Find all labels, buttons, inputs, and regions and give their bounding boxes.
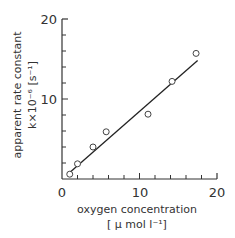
y-tick-20: 20 [40, 12, 57, 27]
data-point [67, 171, 73, 177]
y-axis-label: apparent rate constant [11, 31, 24, 159]
data-point [75, 161, 81, 167]
y-tick-10: 10 [40, 92, 57, 107]
axes [62, 19, 217, 179]
x-tick-0: 0 [58, 185, 66, 200]
data-point [193, 50, 199, 56]
y-axis-unit: k×10⁻⁶ [s⁻¹] [26, 61, 39, 129]
data-point [145, 111, 151, 117]
x-tick-10: 10 [132, 185, 149, 200]
x-axis-label: oxygen concentration [77, 203, 197, 216]
x-axis-unit: [ μ mol l⁻¹] [107, 218, 167, 231]
data-point [90, 144, 96, 150]
scatter-chart: 0 10 20 10 20 oxygen concentration [ μ m… [0, 0, 235, 238]
regression-line [70, 61, 198, 173]
fit-line [70, 61, 198, 173]
data-point [169, 78, 175, 84]
ticks [62, 35, 202, 179]
data-point [103, 129, 109, 135]
x-tick-20: 20 [209, 185, 226, 200]
